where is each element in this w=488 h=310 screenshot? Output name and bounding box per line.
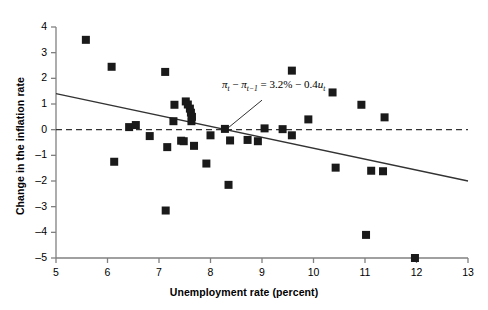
x-axis-tick-label: 10 <box>294 266 334 278</box>
y-axis-tick-label: 3 <box>17 46 47 58</box>
data-point-marker <box>225 181 233 189</box>
data-point-marker <box>304 115 312 123</box>
regression-equation-annotation: πt − πt−1 = 3.2% − 0.4ut <box>222 78 325 93</box>
data-point-marker <box>169 117 177 125</box>
data-point-marker <box>332 164 340 172</box>
data-point-marker <box>381 113 389 121</box>
x-axis-tick-label: 5 <box>36 266 76 278</box>
inflation-unemployment-scatter-chart: Change in the inflation rate Unemploymen… <box>0 0 488 310</box>
data-point-marker <box>367 167 375 175</box>
x-axis-tick-label: 8 <box>191 266 231 278</box>
x-axis-label: Unemployment rate (percent) <box>0 286 488 298</box>
data-point-marker <box>362 231 370 239</box>
data-point-marker <box>161 68 169 76</box>
regression-line <box>56 94 468 181</box>
y-axis-tick-label: 0 <box>17 123 47 135</box>
y-axis-tick-label: –4 <box>17 225 47 237</box>
y-axis-tick-label: –5 <box>17 251 47 263</box>
x-axis-tick-label: 7 <box>139 266 179 278</box>
annotation-leader-line <box>226 100 262 130</box>
data-point-marker <box>279 125 287 133</box>
data-point-marker <box>254 137 262 145</box>
data-point-marker <box>170 101 178 109</box>
data-point-marker <box>411 254 419 262</box>
data-point-marker <box>226 136 234 144</box>
y-axis-tick-label: 1 <box>17 97 47 109</box>
y-axis-tick-label: –2 <box>17 174 47 186</box>
x-axis-tick-label: 9 <box>242 266 282 278</box>
data-point-marker <box>261 124 269 132</box>
data-point-marker <box>379 167 387 175</box>
data-point-marker <box>180 137 188 145</box>
data-point-marker <box>288 67 296 75</box>
data-point-marker <box>132 121 140 129</box>
data-point-marker <box>221 125 229 133</box>
x-axis-tick-label: 13 <box>448 266 488 278</box>
data-point-marker <box>163 143 171 151</box>
data-point-marker <box>110 158 118 166</box>
data-point-marker <box>202 160 210 168</box>
data-point-marker <box>82 36 90 44</box>
data-point-marker <box>146 132 154 140</box>
data-point-marker <box>162 207 170 215</box>
x-axis-tick-label: 12 <box>397 266 437 278</box>
data-point-marker <box>187 117 195 125</box>
data-point-marker <box>190 142 198 150</box>
y-axis-tick-label: –3 <box>17 200 47 212</box>
x-axis-tick-label: 11 <box>345 266 385 278</box>
data-point-marker <box>244 136 252 144</box>
y-axis-tick-label: –1 <box>17 148 47 160</box>
data-point-marker <box>329 88 337 96</box>
data-point-marker <box>108 63 116 71</box>
data-point-marker <box>207 131 215 139</box>
data-point-marker <box>357 101 365 109</box>
data-point-marker <box>288 131 296 139</box>
y-axis-tick-label: 4 <box>17 20 47 32</box>
y-axis-tick-label: 2 <box>17 71 47 83</box>
x-axis-tick-label: 6 <box>88 266 128 278</box>
plot-canvas <box>0 0 488 310</box>
